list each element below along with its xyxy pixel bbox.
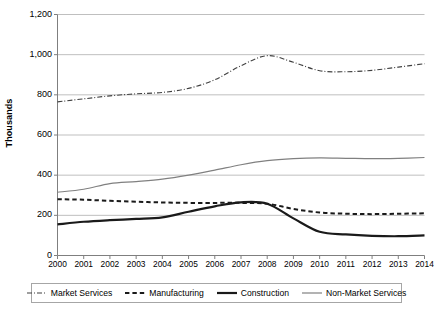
dash-dot-swatch — [27, 289, 47, 297]
legend-item[interactable]: Non-Market Services — [302, 288, 406, 298]
legend-item[interactable]: Construction — [217, 288, 289, 298]
chart-legend: Market ServicesManufacturingConstruction… — [31, 283, 402, 303]
x-tick-label: 2014 — [408, 259, 439, 269]
legend-label: Manufacturing — [149, 288, 203, 298]
legend-label: Construction — [241, 288, 289, 298]
dashed-swatch — [125, 289, 145, 297]
solid-thin-swatch — [302, 289, 322, 297]
legend-label: Non-Market Services — [326, 288, 406, 298]
legend-item[interactable]: Market Services — [27, 288, 113, 298]
series-line — [58, 202, 425, 236]
solid-thick-swatch — [217, 289, 237, 297]
legend-item[interactable]: Manufacturing — [125, 288, 203, 298]
legend-label: Market Services — [51, 288, 113, 298]
